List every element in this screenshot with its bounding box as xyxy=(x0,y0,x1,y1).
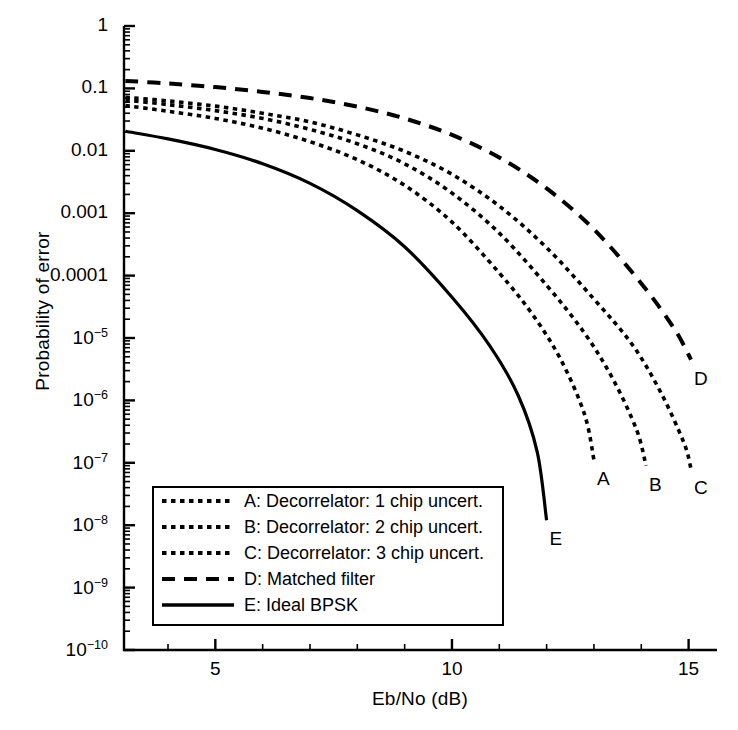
x-tick-label: 10 xyxy=(422,658,482,680)
y-tick-label: 0.0001 xyxy=(0,264,108,286)
curve-end-label-C: C xyxy=(694,477,708,499)
legend-line-sample-dashed xyxy=(160,572,236,586)
y-tick-label: 10−6 xyxy=(0,388,108,411)
x-tick-label: 15 xyxy=(659,658,719,680)
legend-item: D: Matched filter xyxy=(154,566,502,592)
legend-item-label: D: Matched filter xyxy=(244,570,375,588)
legend-item-label: C: Decorrelator: 3 chip uncert. xyxy=(244,544,484,562)
y-tick-label: 0.01 xyxy=(0,139,108,161)
curve-B xyxy=(125,100,646,466)
y-tick-label: 0.001 xyxy=(0,201,108,223)
legend-item: A: Decorrelator: 1 chip uncert. xyxy=(154,488,502,514)
y-tick-label: 10−5 xyxy=(0,326,108,349)
legend-item: E: Ideal BPSK xyxy=(154,592,502,618)
y-tick-label: 1 xyxy=(0,14,108,36)
legend-line-sample-dotted xyxy=(160,546,236,560)
data-curves xyxy=(125,81,691,520)
curve-D xyxy=(125,81,691,360)
legend-item-label: A: Decorrelator: 1 chip uncert. xyxy=(244,492,483,510)
legend-line-sample-dotted xyxy=(160,520,236,534)
legend-line-sample-solid xyxy=(160,598,236,612)
y-tick-label: 10−10 xyxy=(0,638,108,661)
chart-legend: A: Decorrelator: 1 chip uncert.B: Decorr… xyxy=(152,486,504,626)
y-tick-label: 0.1 xyxy=(0,76,108,98)
legend-item: C: Decorrelator: 3 chip uncert. xyxy=(154,540,502,566)
curve-C xyxy=(125,97,691,469)
legend-item: B: Decorrelator: 2 chip uncert. xyxy=(154,514,502,540)
legend-item-label: E: Ideal BPSK xyxy=(244,596,358,614)
y-tick-label: 10−7 xyxy=(0,451,108,474)
curve-end-label-D: D xyxy=(694,368,708,390)
legend-item-label: B: Decorrelator: 2 chip uncert. xyxy=(244,518,483,536)
ber-chart-figure: Probability of error Eb/No (dB) 10.10.01… xyxy=(0,0,738,730)
curve-end-label-B: B xyxy=(649,474,662,496)
curve-E xyxy=(125,131,546,520)
x-axis-title: Eb/No (dB) xyxy=(300,688,540,710)
curve-end-label-A: A xyxy=(597,468,610,490)
y-tick-label: 10−9 xyxy=(0,576,108,599)
y-tick-label: 10−8 xyxy=(0,513,108,536)
legend-line-sample-dotted xyxy=(160,494,236,508)
y-axis-title: Probability of error xyxy=(32,206,54,416)
curve-end-label-E: E xyxy=(550,528,563,550)
x-tick-label: 5 xyxy=(185,658,245,680)
